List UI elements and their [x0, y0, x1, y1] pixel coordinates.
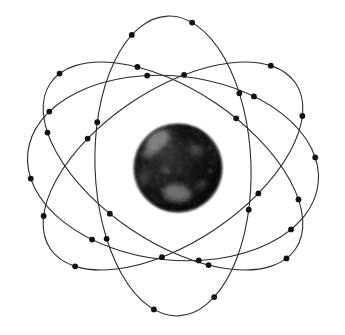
- nucleus-grain: [183, 153, 186, 156]
- nucleus-grain: [199, 173, 200, 174]
- nucleus-grain: [197, 173, 199, 175]
- nucleus-grain: [164, 174, 166, 176]
- nucleus-grain: [160, 163, 161, 164]
- nucleus-grain: [207, 151, 208, 152]
- nucleus-grain: [165, 205, 168, 208]
- nucleus-grain: [143, 164, 144, 165]
- nucleus-grain: [149, 146, 151, 148]
- nucleus-grain: [200, 166, 203, 169]
- nucleus-grain: [209, 154, 211, 156]
- nucleus-grain: [212, 152, 217, 157]
- nucleus-grain: [150, 189, 152, 191]
- nucleus-grain: [190, 159, 192, 161]
- electron: [189, 20, 195, 26]
- nucleus-grain: [153, 178, 155, 180]
- nucleus-grain: [161, 158, 163, 160]
- nucleus-grain: [178, 203, 181, 206]
- nucleus-grain: [172, 138, 176, 142]
- nucleus-grain: [151, 182, 155, 186]
- electron: [72, 263, 78, 269]
- electron: [45, 130, 51, 136]
- nucleus-grain: [154, 196, 159, 201]
- nucleus-grain: [148, 177, 151, 180]
- nucleus-grain: [139, 180, 142, 183]
- nucleus-grain: [179, 147, 183, 151]
- nucleus-grain: [172, 176, 174, 178]
- nucleus-grain: [199, 142, 201, 144]
- nucleus-grain: [151, 158, 155, 162]
- electron: [251, 93, 257, 99]
- nucleus-grain: [198, 144, 201, 147]
- nucleus-grain: [158, 159, 161, 162]
- nucleus-grain: [183, 134, 186, 137]
- nucleus-grain: [202, 143, 203, 144]
- electron: [159, 254, 165, 260]
- nucleus-grain: [173, 136, 175, 138]
- nucleus-grain: [165, 139, 169, 143]
- nucleus-grain: [181, 186, 185, 190]
- nucleus-grain: [189, 151, 191, 153]
- nucleus-grain: [208, 179, 210, 181]
- nucleus-grain: [176, 132, 179, 135]
- nucleus-grain: [168, 206, 170, 208]
- nucleus-grain: [198, 146, 203, 151]
- nucleus-grain: [170, 183, 172, 185]
- nucleus-grain: [202, 173, 205, 176]
- nucleus-grain: [145, 159, 149, 163]
- nucleus-grain: [193, 157, 197, 161]
- nucleus-grain: [204, 190, 206, 192]
- electron: [246, 207, 252, 213]
- nucleus-grain: [159, 131, 161, 133]
- nucleus-grain: [144, 165, 147, 168]
- nucleus-grain: [183, 207, 186, 210]
- nucleus-grain: [211, 148, 215, 152]
- electron: [104, 236, 110, 242]
- nucleus-grain: [138, 151, 142, 155]
- nucleus-grain: [195, 131, 197, 133]
- nucleus-grain: [154, 175, 159, 180]
- electron: [299, 113, 305, 119]
- nucleus-grain: [145, 149, 146, 150]
- nucleus-grain: [156, 169, 160, 173]
- nucleus-grain: [177, 193, 182, 198]
- nucleus-grain: [144, 167, 146, 169]
- nucleus-grain: [179, 162, 181, 164]
- nucleus-grain: [176, 170, 178, 172]
- nucleus-grain: [184, 165, 189, 170]
- nucleus-grain: [164, 182, 168, 186]
- nucleus-grain: [150, 191, 155, 196]
- nucleus-grain: [157, 164, 159, 166]
- nucleus-grain: [142, 190, 143, 191]
- nucleus-grain: [175, 198, 178, 201]
- nucleus-grain: [175, 165, 179, 169]
- nucleus-grain: [196, 183, 198, 185]
- nucleus-grain: [165, 202, 168, 205]
- nucleus-grain: [209, 169, 213, 173]
- nucleus-grain: [165, 155, 169, 159]
- nucleus-grain: [184, 200, 186, 202]
- nucleus-grain: [191, 175, 194, 178]
- nucleus-grain: [186, 127, 188, 129]
- nucleus-grain: [141, 146, 143, 148]
- electron: [107, 211, 113, 217]
- nucleus-grain: [184, 174, 187, 177]
- nucleus-grain: [194, 202, 198, 206]
- nucleus-grain: [206, 155, 208, 157]
- nucleus-grain: [152, 186, 155, 189]
- nucleus-grain: [150, 170, 154, 174]
- nucleus-grain: [162, 180, 163, 181]
- nucleus-grain: [156, 138, 158, 140]
- electron: [85, 136, 91, 142]
- nucleus-grain: [173, 188, 177, 192]
- nucleus-grain: [211, 145, 213, 147]
- electron: [181, 72, 187, 78]
- nucleus-grain: [136, 173, 139, 176]
- nucleus-grain: [189, 143, 191, 145]
- atom-diagram-canvas: [0, 0, 345, 335]
- nucleus-grain: [173, 131, 175, 133]
- electron: [135, 64, 141, 70]
- electron: [151, 307, 157, 313]
- nucleus-grain: [206, 147, 211, 152]
- nucleus-grain: [140, 170, 141, 171]
- nucleus-grain: [194, 179, 195, 180]
